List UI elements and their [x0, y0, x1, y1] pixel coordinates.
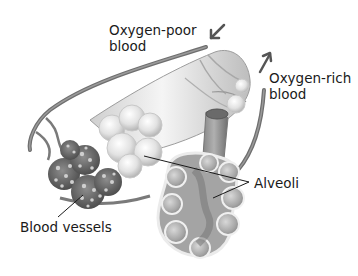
oxygen-poor-blood-label: Oxygen-poor blood — [109, 22, 197, 54]
alveoli-diagram: Oxygen-poor blood Oxygen-rich blood Alve… — [0, 0, 358, 276]
alveoli-label: Alveoli — [254, 175, 299, 191]
oxygen-rich-blood-label: Oxygen-rich blood — [269, 70, 351, 102]
alveolar-sac-cutaway — [158, 153, 244, 258]
oxygen-poor-inflow-arrow — [211, 25, 224, 38]
blood-vessels-label: Blood vessels — [20, 219, 112, 235]
